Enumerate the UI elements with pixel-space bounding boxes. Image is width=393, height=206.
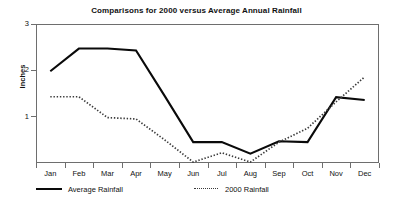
legend-solid-line-icon bbox=[36, 184, 62, 194]
line-2000-rainfall bbox=[50, 77, 364, 162]
legend-label: Average Rainfall bbox=[68, 185, 123, 194]
line-average-rainfall bbox=[50, 49, 364, 154]
legend-dotted-line-icon bbox=[193, 184, 219, 194]
page-bottom-partial-text bbox=[28, 200, 168, 206]
chart-legend: Average Rainfall 2000 Rainfall bbox=[0, 183, 393, 199]
rainfall-comparison-chart: Comparisons for 2000 versus Average Annu… bbox=[0, 0, 393, 206]
legend-item-average-rainfall: Average Rainfall bbox=[36, 183, 123, 195]
series-canvas bbox=[0, 0, 393, 206]
legend-item-2000-rainfall: 2000 Rainfall bbox=[193, 183, 269, 195]
legend-label: 2000 Rainfall bbox=[225, 185, 269, 194]
